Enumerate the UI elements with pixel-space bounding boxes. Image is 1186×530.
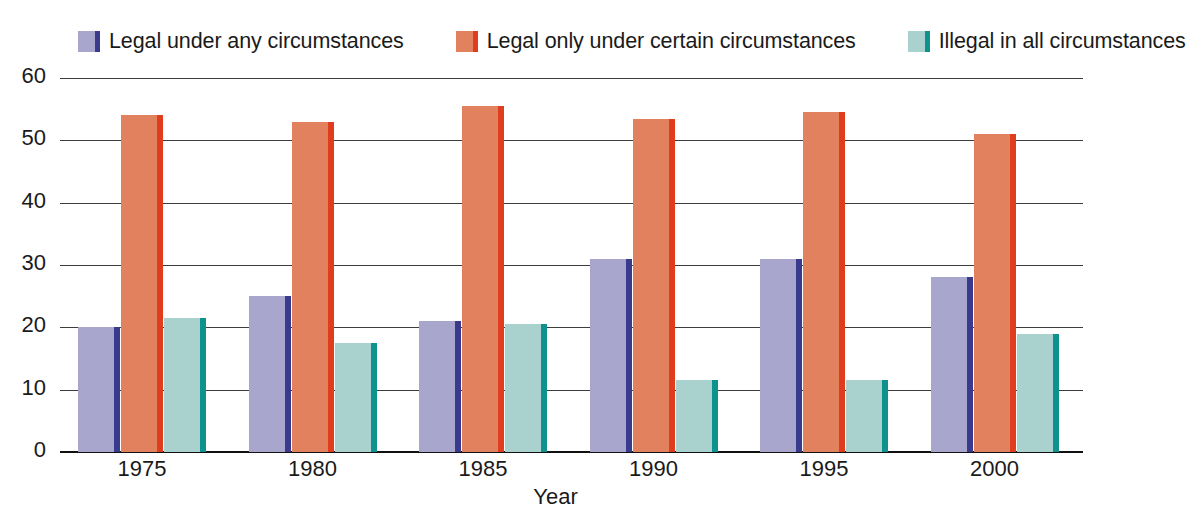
bar-group	[760, 78, 888, 452]
bar[interactable]	[249, 296, 291, 452]
bar-edge	[455, 321, 461, 452]
y-axis: 0102030405060	[0, 0, 60, 530]
bar-face	[931, 277, 967, 452]
bar[interactable]	[974, 134, 1016, 452]
bar-edge	[114, 327, 120, 452]
bar[interactable]	[292, 122, 334, 452]
swatch-face	[908, 31, 925, 52]
bar-face	[760, 259, 796, 452]
bar-edge	[157, 115, 163, 452]
legend-label: Legal under any circumstances	[109, 31, 404, 52]
y-tick-label: 40	[0, 188, 46, 214]
swatch-edge	[95, 31, 100, 52]
bar-face	[164, 318, 200, 452]
bar[interactable]	[931, 277, 973, 452]
swatch-edge	[925, 31, 930, 52]
bar-face	[419, 321, 455, 452]
bar-edge	[498, 106, 504, 452]
legend-item-illegal-all[interactable]: Illegal in all circumstances	[908, 31, 1186, 52]
bar-face	[974, 134, 1010, 452]
legend-swatch-icon	[908, 31, 930, 52]
bar[interactable]	[78, 327, 120, 452]
bar-edge	[839, 112, 845, 452]
x-tick-label: 1980	[253, 456, 373, 482]
bar-face	[121, 115, 157, 452]
bar-edge	[796, 259, 802, 452]
bar-group	[590, 78, 718, 452]
bar-edge	[541, 324, 547, 452]
bar[interactable]	[846, 380, 888, 452]
x-tick-label: 1975	[82, 456, 202, 482]
bar-group	[931, 78, 1059, 452]
bar-edge	[626, 259, 632, 452]
bar[interactable]	[590, 259, 632, 452]
bar-edge	[200, 318, 206, 452]
bar-face	[505, 324, 541, 452]
bar[interactable]	[760, 259, 802, 452]
legend-label: Illegal in all circumstances	[939, 31, 1186, 52]
bar[interactable]	[633, 119, 675, 452]
bar-face	[846, 380, 882, 452]
y-tick-label: 60	[0, 63, 46, 89]
bar-face	[292, 122, 328, 452]
y-tick-label: 10	[0, 375, 46, 401]
bar-face	[590, 259, 626, 452]
chart-legend: Legal under any circumstances Legal only…	[78, 26, 1083, 56]
bar-edge	[285, 296, 291, 452]
bar-edge	[328, 122, 334, 452]
legend-swatch-icon	[78, 31, 100, 52]
bar-face	[462, 106, 498, 452]
x-tick-label: 1990	[594, 456, 714, 482]
plot-area	[60, 78, 1083, 452]
bar-edge	[1010, 134, 1016, 452]
bar-edge	[371, 343, 377, 452]
bar-face	[335, 343, 371, 452]
swatch-edge	[473, 31, 478, 52]
bar-face	[78, 327, 114, 452]
bar-edge	[967, 277, 973, 452]
legend-item-legal-any[interactable]: Legal under any circumstances	[78, 31, 404, 52]
legend-swatch-icon	[456, 31, 478, 52]
bar[interactable]	[335, 343, 377, 452]
bar[interactable]	[164, 318, 206, 452]
bar[interactable]	[462, 106, 504, 452]
legend-item-legal-certain[interactable]: Legal only under certain circumstances	[456, 31, 856, 52]
bar-face	[1017, 334, 1053, 452]
bar-edge	[1053, 334, 1059, 452]
bar[interactable]	[505, 324, 547, 452]
x-axis-label: Year	[0, 484, 1111, 510]
x-tick-label: 1985	[423, 456, 543, 482]
x-axis: 197519801985199019952000	[60, 456, 1083, 486]
bar[interactable]	[419, 321, 461, 452]
swatch-face	[78, 31, 95, 52]
y-tick-label: 30	[0, 250, 46, 276]
bar-group	[419, 78, 547, 452]
bar[interactable]	[1017, 334, 1059, 452]
legend-label: Legal only under certain circumstances	[487, 31, 856, 52]
bar[interactable]	[121, 115, 163, 452]
bar-edge	[882, 380, 888, 452]
bar-face	[676, 380, 712, 452]
bar-group	[78, 78, 206, 452]
x-tick-label: 1995	[764, 456, 884, 482]
bar-face	[249, 296, 285, 452]
y-tick-label: 50	[0, 125, 46, 151]
bar-face	[633, 119, 669, 452]
y-tick-label: 0	[0, 437, 46, 463]
y-tick-label: 20	[0, 312, 46, 338]
x-tick-label: 2000	[935, 456, 1055, 482]
bar-face	[803, 112, 839, 452]
bar-edge	[712, 380, 718, 452]
bar-group	[249, 78, 377, 452]
swatch-face	[456, 31, 473, 52]
bar[interactable]	[676, 380, 718, 452]
bar[interactable]	[803, 112, 845, 452]
bar-edge	[669, 119, 675, 452]
